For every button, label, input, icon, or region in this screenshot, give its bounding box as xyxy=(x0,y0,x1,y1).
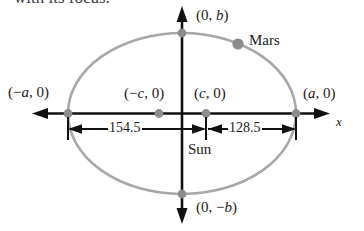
y-axis-arrow-up xyxy=(177,6,188,22)
x-axis-arrow-left xyxy=(32,108,48,119)
right-vertex-marker xyxy=(292,109,301,118)
left-vertex-marker xyxy=(64,109,73,118)
mars-label: Mars xyxy=(249,33,280,48)
bottom-vertex-label: (0, −b) xyxy=(196,200,237,215)
x-axis-label: x xyxy=(336,115,342,128)
right-focus-marker xyxy=(202,109,211,118)
top-vertex-label: (0, b) xyxy=(196,8,229,23)
left-focus-label: (−c, 0) xyxy=(124,86,164,101)
left-vertex-label: (−a, 0) xyxy=(8,85,49,100)
dimension-arrow-154-right xyxy=(192,124,206,134)
top-vertex-marker xyxy=(178,29,187,38)
sun-label: Sun xyxy=(188,142,211,157)
diagram-canvas xyxy=(0,0,364,231)
dimension-label-154: 154.5 xyxy=(108,121,142,135)
dimension-arrow-128-left xyxy=(208,124,222,134)
bottom-vertex-marker xyxy=(178,190,187,199)
mars-orbit-figure: with its focus. (0, b) M xyxy=(0,0,364,231)
x-axis-arrow-right xyxy=(314,108,330,119)
y-axis-arrow-down xyxy=(177,208,188,224)
right-focus-label: (c, 0) xyxy=(194,86,226,101)
right-vertex-label: (a, 0) xyxy=(303,86,336,101)
dimension-label-128: 128.5 xyxy=(228,121,262,135)
mars-planet-marker xyxy=(232,38,243,49)
left-focus-marker xyxy=(155,109,164,118)
